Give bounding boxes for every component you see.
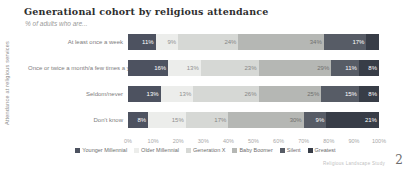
chart-title: Generational cohort by religious attenda…: [24, 6, 269, 17]
x-axis-ticks: 0%10%20%30%40%50%60%70%80%90%100%: [128, 138, 379, 146]
row-label: Don't know: [28, 117, 128, 123]
legend-label: Greatest: [315, 147, 336, 153]
row-label: Seldom/never: [28, 91, 128, 97]
segment-value-label: 16%: [154, 60, 168, 76]
bar-row: Seldom/never13%13%26%25%15%8%: [28, 86, 379, 102]
segment-value-label: 29%: [317, 60, 331, 76]
bar-segment: 23%: [201, 60, 259, 76]
segment-value-label: 23%: [244, 60, 258, 76]
segment-value-label: 11%: [142, 34, 156, 50]
segment-value-label: 34%: [310, 34, 324, 50]
legend-item: Silent: [280, 147, 301, 153]
bar-segment: 8%: [128, 112, 148, 128]
x-axis-spacer: [28, 138, 128, 146]
bar-segment: 11%: [331, 60, 359, 76]
legend: Younger MillennialOlder MillennialGenera…: [0, 147, 411, 153]
bar-segment: 9%: [156, 34, 179, 50]
segment-value-label: 15%: [172, 112, 186, 128]
legend-swatch-icon: [186, 148, 191, 153]
bar-segment: 21%: [326, 112, 379, 128]
legend-swatch-icon: [75, 148, 80, 153]
x-axis-tick-label: 30%: [198, 138, 209, 144]
legend-item: Greatest: [308, 147, 336, 153]
segment-value-label: 8%: [368, 86, 379, 102]
segment-value-label: 13%: [187, 60, 201, 76]
x-axis-tick-label: 60%: [273, 138, 284, 144]
bar-segment: 11%: [128, 34, 156, 50]
row-label: Once or twice a month/a few times a year: [28, 65, 128, 71]
bar-segment: 8%: [359, 60, 379, 76]
legend-swatch-icon: [280, 148, 285, 153]
segment-value-label: 25%: [307, 86, 321, 102]
segment-value-label: 26%: [244, 86, 258, 102]
legend-swatch-icon: [308, 148, 313, 153]
legend-label: Baby Boomer: [239, 147, 272, 153]
bar-segment: 29%: [259, 60, 332, 76]
bar-segment: 9%: [304, 112, 327, 128]
bar-row: Once or twice a month/a few times a year…: [28, 60, 379, 76]
x-axis-tick-label: 70%: [298, 138, 309, 144]
segment-value-label: 9%: [168, 34, 179, 50]
x-axis-tick-label: 10%: [148, 138, 159, 144]
segment-value-label: 17%: [214, 112, 228, 128]
y-axis-title: Attendance at religious services: [4, 28, 12, 138]
row-label: At least once a week: [28, 39, 128, 45]
x-axis-tick-label: 50%: [248, 138, 259, 144]
bar-segment: 15%: [148, 112, 186, 128]
segment-value-label: 11%: [345, 60, 359, 76]
stacked-bar: 13%13%26%25%15%8%: [128, 86, 379, 102]
x-axis-tick-label: 100%: [372, 138, 386, 144]
legend-label: Silent: [287, 147, 301, 153]
bar-segment: 26%: [193, 86, 258, 102]
x-axis-tick-label: 90%: [348, 138, 359, 144]
bar-segment: 17%: [324, 34, 367, 50]
bar-row: Don't know8%15%17%30%9%21%: [28, 112, 379, 128]
x-axis-tick-label: 20%: [173, 138, 184, 144]
bar-segment: 13%: [161, 86, 194, 102]
bar-segment: 17%: [186, 112, 229, 128]
bar-segment: 25%: [259, 86, 322, 102]
legend-label: Generation X: [193, 147, 225, 153]
bar-segment: 24%: [178, 34, 238, 50]
segment-value-label: 13%: [179, 86, 193, 102]
segment-value-label: 17%: [352, 34, 366, 50]
slide: Generational cohort by religious attenda…: [0, 0, 411, 181]
segment-value-label: 30%: [290, 112, 304, 128]
bar-rows: At least once a week11%9%24%34%17%Once o…: [28, 34, 379, 128]
segment-value-label: 24%: [224, 34, 238, 50]
segment-value-label: 13%: [147, 86, 161, 102]
legend-label: Older Millennial: [141, 147, 179, 153]
segment-value-label: 8%: [137, 112, 148, 128]
legend-item: Younger Millennial: [75, 147, 127, 153]
stacked-bar: 11%9%24%34%17%: [128, 34, 379, 50]
legend-item: Generation X: [186, 147, 225, 153]
bar-segment: 13%: [168, 60, 201, 76]
segment-value-label: 21%: [365, 112, 379, 128]
bar-segment: [366, 34, 379, 50]
bar-row: At least once a week11%9%24%34%17%: [28, 34, 379, 50]
segment-value-label: 9%: [316, 112, 327, 128]
stacked-bar: 16%13%23%29%11%8%: [128, 60, 379, 76]
stacked-bar: 8%15%17%30%9%21%: [128, 112, 379, 128]
segment-value-label: 15%: [345, 86, 359, 102]
legend-item: Older Millennial: [134, 147, 179, 153]
x-axis-tick-label: 40%: [223, 138, 234, 144]
x-axis: 0%10%20%30%40%50%60%70%80%90%100%: [28, 138, 379, 146]
bar-segment: 13%: [128, 86, 161, 102]
x-axis-tick-label: 80%: [323, 138, 334, 144]
bar-segment: 30%: [228, 112, 303, 128]
legend-swatch-icon: [134, 148, 139, 153]
bar-segment: 16%: [128, 60, 168, 76]
legend-item: Baby Boomer: [232, 147, 272, 153]
legend-swatch-icon: [232, 148, 237, 153]
x-axis-tick-label: 0%: [124, 138, 132, 144]
bar-segment: 8%: [359, 86, 379, 102]
source-note: Religious Landscape Study: [323, 161, 385, 166]
legend-label: Younger Millennial: [82, 147, 127, 153]
chart-subtitle: % of adults who are...: [25, 20, 88, 27]
bar-segment: 34%: [238, 34, 323, 50]
segment-value-label: 8%: [368, 60, 379, 76]
page-number: 2: [395, 153, 403, 167]
chart-area: At least once a week11%9%24%34%17%Once o…: [28, 34, 379, 146]
bar-segment: 15%: [321, 86, 359, 102]
